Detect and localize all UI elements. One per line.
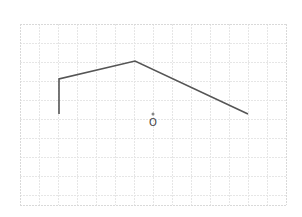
diagram-canvas: O — [0, 0, 302, 217]
center-point — [152, 113, 155, 116]
point-label: O — [149, 117, 157, 128]
